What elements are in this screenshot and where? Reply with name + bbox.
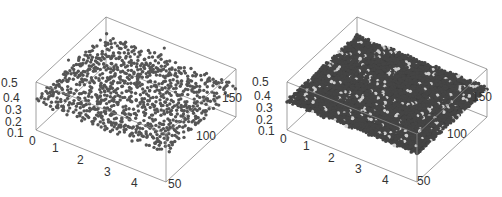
x-tick-label: 1	[303, 140, 310, 152]
scatter-plot-3d-right: 0.5 0.4 0.3 0.2 0.1 0 1 2 3 4 150 100 50	[251, 0, 502, 197]
z-tick-label: 0.1	[7, 127, 24, 139]
z-tick-label: 0.5	[1, 77, 18, 89]
x-tick-label: 3	[104, 166, 111, 178]
x-tick-label: 2	[328, 152, 335, 164]
y-tick-label: 50	[168, 178, 181, 190]
y-tick-label: 50	[417, 175, 430, 187]
plot-canvas	[0, 0, 251, 197]
y-tick-label: 100	[447, 128, 467, 140]
z-tick-label: 0	[280, 133, 287, 145]
scatter-plot-3d-left: 0.5 0.4 0.3 0.2 0.1 0 1 2 3 4 150 100 50	[0, 0, 251, 197]
z-tick-label: 0.5	[252, 76, 269, 88]
z-tick-label: 0	[29, 135, 36, 147]
y-tick-label: 150	[222, 92, 242, 104]
x-tick-label: 2	[77, 154, 84, 166]
x-tick-label: 4	[131, 177, 138, 189]
y-tick-label: 150	[472, 91, 492, 103]
x-tick-label: 4	[382, 174, 389, 186]
plot-canvas	[251, 0, 502, 197]
x-tick-label: 1	[52, 142, 59, 154]
x-tick-label: 3	[355, 163, 362, 175]
z-tick-label: 0.1	[258, 125, 275, 137]
y-tick-label: 100	[196, 130, 216, 142]
